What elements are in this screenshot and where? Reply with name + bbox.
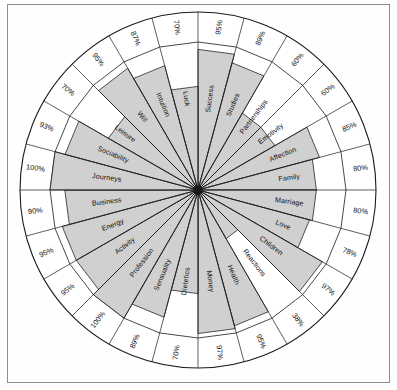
wheel-hub	[194, 186, 202, 194]
wheel-of-life-chart[interactable]: SuccessStudiesPartnershipsEmotivityAffec…	[8, 5, 389, 382]
chart-frame: SuccessStudiesPartnershipsEmotivityAffec…	[7, 4, 390, 383]
screenshot-root: SuccessStudiesPartnershipsEmotivityAffec…	[0, 0, 397, 390]
